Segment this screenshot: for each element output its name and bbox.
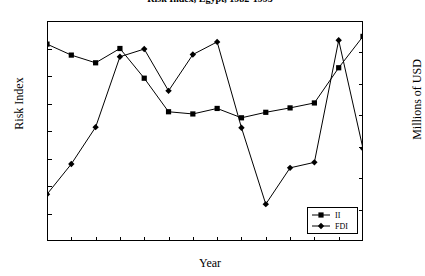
data-point-square [312, 100, 317, 105]
data-point-square [360, 34, 363, 39]
data-point-diamond [335, 37, 341, 43]
data-point-square [215, 106, 220, 111]
data-point-square [166, 109, 171, 114]
data-point-diamond [238, 125, 244, 131]
plot-area: 0510152025303540 02004006008001000120014… [47, 21, 363, 241]
data-point-square [336, 65, 341, 70]
data-point-diamond [263, 201, 269, 207]
data-point-diamond [214, 39, 220, 45]
chart-canvas: 0510152025303540 02004006008001000120014… [47, 21, 363, 241]
legend-border [308, 208, 358, 234]
chart-title: Risk Index, Egypt, 1982-1995 [0, 0, 420, 4]
data-point-diamond [287, 165, 293, 171]
data-point-square [47, 42, 50, 47]
data-point-diamond [141, 46, 147, 52]
data-point-square [263, 110, 268, 115]
data-point-diamond [311, 159, 317, 165]
data-point-square [117, 46, 122, 51]
data-point-square [190, 111, 195, 116]
data-point-square [93, 60, 98, 65]
data-point-square [142, 76, 147, 81]
x-axis-title: Year [0, 256, 420, 271]
data-point-diamond [190, 51, 196, 57]
y-axis-left-title: Risk Index [12, 49, 27, 159]
legend-label: II [335, 211, 341, 220]
data-point-diamond [165, 88, 171, 94]
data-point-diamond [360, 145, 363, 151]
y-axis-right-title: Millions of USD [410, 35, 425, 165]
data-point-diamond [92, 124, 98, 130]
chart-legend[interactable]: IIFDI [308, 208, 358, 234]
series-ii [47, 34, 363, 121]
data-point-square [69, 53, 74, 58]
data-point-diamond [117, 54, 123, 60]
data-point-square [287, 105, 292, 110]
data-series-group [47, 34, 363, 208]
legend-label: FDI [335, 222, 348, 231]
data-point-square [318, 212, 323, 217]
